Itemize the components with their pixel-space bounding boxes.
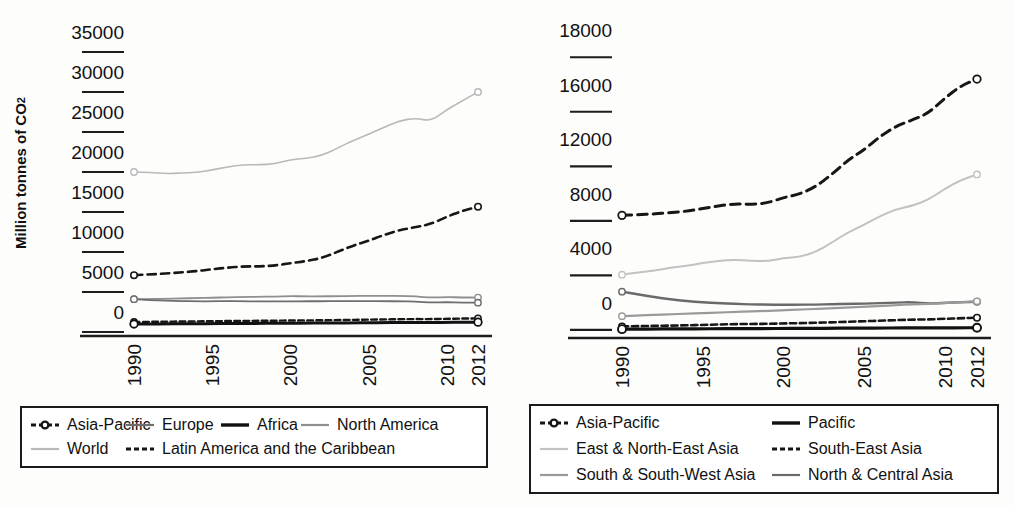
- series-endpoint-marker: [974, 171, 980, 177]
- x-tick-label: 2005: [854, 346, 875, 388]
- x-tick-label: 2012: [967, 346, 988, 388]
- legend-left-item[interactable]: Latin America and the Caribbean: [125, 437, 450, 461]
- legend-right-item[interactable]: Asia-Pacific: [539, 410, 771, 436]
- legend-item-label: Africa: [257, 416, 298, 434]
- legend-swatch-icon: [771, 442, 801, 456]
- series-endpoint-marker: [619, 313, 625, 319]
- legend-left-item[interactable]: Europe: [125, 413, 220, 437]
- series-endpoint-marker: [618, 325, 626, 333]
- legend-line-style-icon: [539, 442, 569, 456]
- y-tick-label: 35000: [71, 22, 124, 43]
- legend-left: Asia-PacificEuropeAfricaNorth AmericaWor…: [20, 406, 488, 468]
- legend-swatch-icon: [771, 416, 801, 430]
- legend-swatch-icon: [30, 442, 60, 456]
- legend-left-item[interactable]: Asia-Pacific: [30, 413, 125, 437]
- legend-swatch-icon: [539, 442, 569, 456]
- y-tick-label: 18000: [559, 20, 612, 41]
- series-endpoint-marker: [475, 300, 481, 306]
- y-tick-label: 12000: [559, 129, 612, 150]
- x-tick-label: 2010: [935, 346, 956, 388]
- y-tick-label: 4000: [570, 238, 612, 259]
- legend-line-style-icon: [771, 442, 801, 456]
- series-endpoint-marker: [131, 169, 137, 175]
- series-endpoint-marker: [619, 271, 625, 277]
- legend-swatch-icon: [220, 418, 250, 432]
- x-tick-label: 2000: [773, 346, 794, 388]
- y-tick-label: 5000: [82, 262, 124, 283]
- legend-right-item[interactable]: North & Central Asia: [771, 462, 1003, 488]
- legend-line-style-icon: [771, 416, 801, 430]
- series-endpoint-marker: [474, 318, 482, 326]
- legend-swatch-icon: [30, 418, 60, 432]
- series-endpoint-marker: [131, 296, 137, 302]
- legend-right-item[interactable]: South & South-West Asia: [539, 462, 771, 488]
- legend-swatch-icon: [771, 468, 801, 482]
- series-line: [134, 296, 478, 299]
- legend-item-label: Europe: [162, 416, 214, 434]
- series-endpoint-marker: [475, 204, 482, 211]
- legend-line-style-icon: [125, 418, 155, 432]
- y-tick-label: 10000: [71, 222, 124, 243]
- series-endpoint-marker: [618, 212, 626, 220]
- series-endpoint-marker: [131, 272, 138, 279]
- legend-right-item[interactable]: East & North-East Asia: [539, 436, 771, 462]
- legend-item-label: Asia-Pacific: [576, 414, 660, 432]
- legend-line-style-icon: [30, 418, 60, 432]
- series-endpoint-marker: [973, 75, 981, 83]
- legend-line-style-icon: [539, 468, 569, 482]
- legend-item-label: World: [67, 440, 109, 458]
- legend-line-style-icon: [539, 416, 569, 430]
- series-endpoint-marker: [973, 324, 981, 332]
- x-tick-label: 1990: [612, 346, 633, 388]
- x-tick-label: 2005: [359, 344, 380, 386]
- legend-swatch-icon: [125, 418, 155, 432]
- legend-left-item[interactable]: World: [30, 437, 125, 461]
- legend-swatch-icon: [300, 418, 330, 432]
- legend-right: Asia-PacificPacificEast & North-East Asi…: [529, 404, 999, 494]
- y-tick-label: 0: [113, 302, 124, 323]
- legend-item-label: South-East Asia: [808, 440, 922, 458]
- legend-swatch-icon: [539, 416, 569, 430]
- y-tick-label: 15000: [71, 182, 124, 203]
- series-line: [134, 299, 478, 303]
- legend-right-item[interactable]: South-East Asia: [771, 436, 1003, 462]
- series-endpoint-marker: [974, 314, 981, 321]
- legend-line-style-icon: [771, 468, 801, 482]
- y-tick-label: 20000: [71, 142, 124, 163]
- legend-line-style-icon: [30, 442, 60, 456]
- legend-right-item[interactable]: Pacific: [771, 410, 1003, 436]
- legend-left-item[interactable]: North America: [300, 413, 450, 437]
- x-tick-label: 1995: [202, 344, 223, 386]
- legend-item-label: South & South-West Asia: [576, 466, 755, 484]
- legend-item-label: North America: [337, 416, 438, 434]
- line-chart-left: 0500010000150002000025000300003500019901…: [0, 0, 507, 400]
- series-endpoint-marker: [619, 288, 625, 294]
- series-endpoint-marker: [974, 298, 980, 304]
- series-line: [622, 79, 977, 215]
- series-line: [134, 92, 478, 173]
- x-tick-label: 2000: [280, 344, 301, 386]
- series-line: [134, 322, 478, 324]
- series-endpoint-marker: [475, 89, 481, 95]
- y-tick-label: 25000: [71, 102, 124, 123]
- legend-line-style-icon: [125, 442, 155, 456]
- x-tick-label: 1990: [124, 344, 145, 386]
- y-tick-label: 0: [601, 293, 612, 314]
- y-tick-label: 8000: [570, 184, 612, 205]
- x-tick-label: 2012: [468, 344, 489, 386]
- legend-line-style-icon: [300, 418, 330, 432]
- series-line: [622, 328, 977, 329]
- legend-left-item[interactable]: Africa: [220, 413, 300, 437]
- legend-item-label: East & North-East Asia: [576, 440, 739, 458]
- series-line: [622, 318, 977, 327]
- line-chart-right: 0400080001200016000180001990199520002005…: [507, 0, 1014, 400]
- series-line: [622, 174, 977, 274]
- legend-line-style-icon: [220, 418, 250, 432]
- x-tick-label: 2010: [437, 344, 458, 386]
- series-endpoint-marker: [130, 320, 138, 328]
- y-tick-label: 30000: [71, 62, 124, 83]
- series-line: [622, 292, 977, 305]
- series-line: [134, 207, 478, 275]
- legend-item-label: North & Central Asia: [808, 466, 953, 484]
- legend-item-label: Pacific: [808, 414, 855, 432]
